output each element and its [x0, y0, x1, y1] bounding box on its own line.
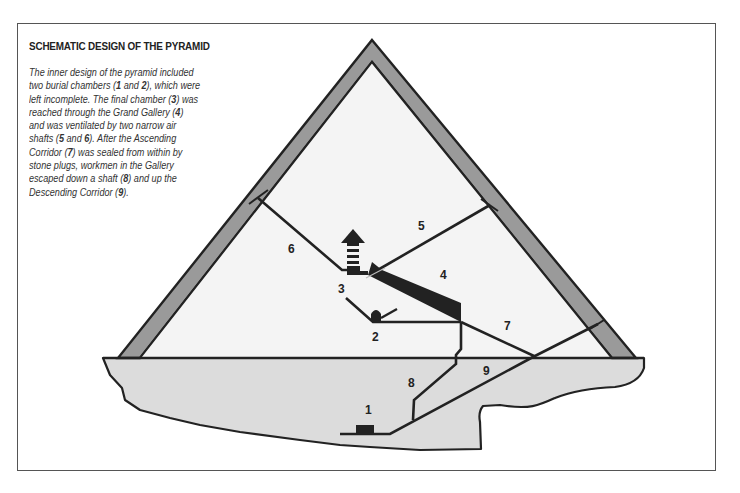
- label-4: 4: [440, 268, 447, 282]
- label-5: 5: [418, 219, 425, 233]
- pyramid-diagram: 1 2 3 4 5 6 7 8 9: [0, 0, 740, 493]
- label-6: 6: [288, 242, 295, 256]
- label-2: 2: [372, 330, 379, 344]
- burial-chamber-1: [356, 425, 374, 434]
- bedrock: [103, 358, 644, 450]
- label-7: 7: [504, 319, 511, 333]
- label-3: 3: [338, 282, 345, 296]
- label-8: 8: [408, 376, 415, 390]
- label-9: 9: [483, 364, 490, 378]
- label-1: 1: [365, 403, 372, 417]
